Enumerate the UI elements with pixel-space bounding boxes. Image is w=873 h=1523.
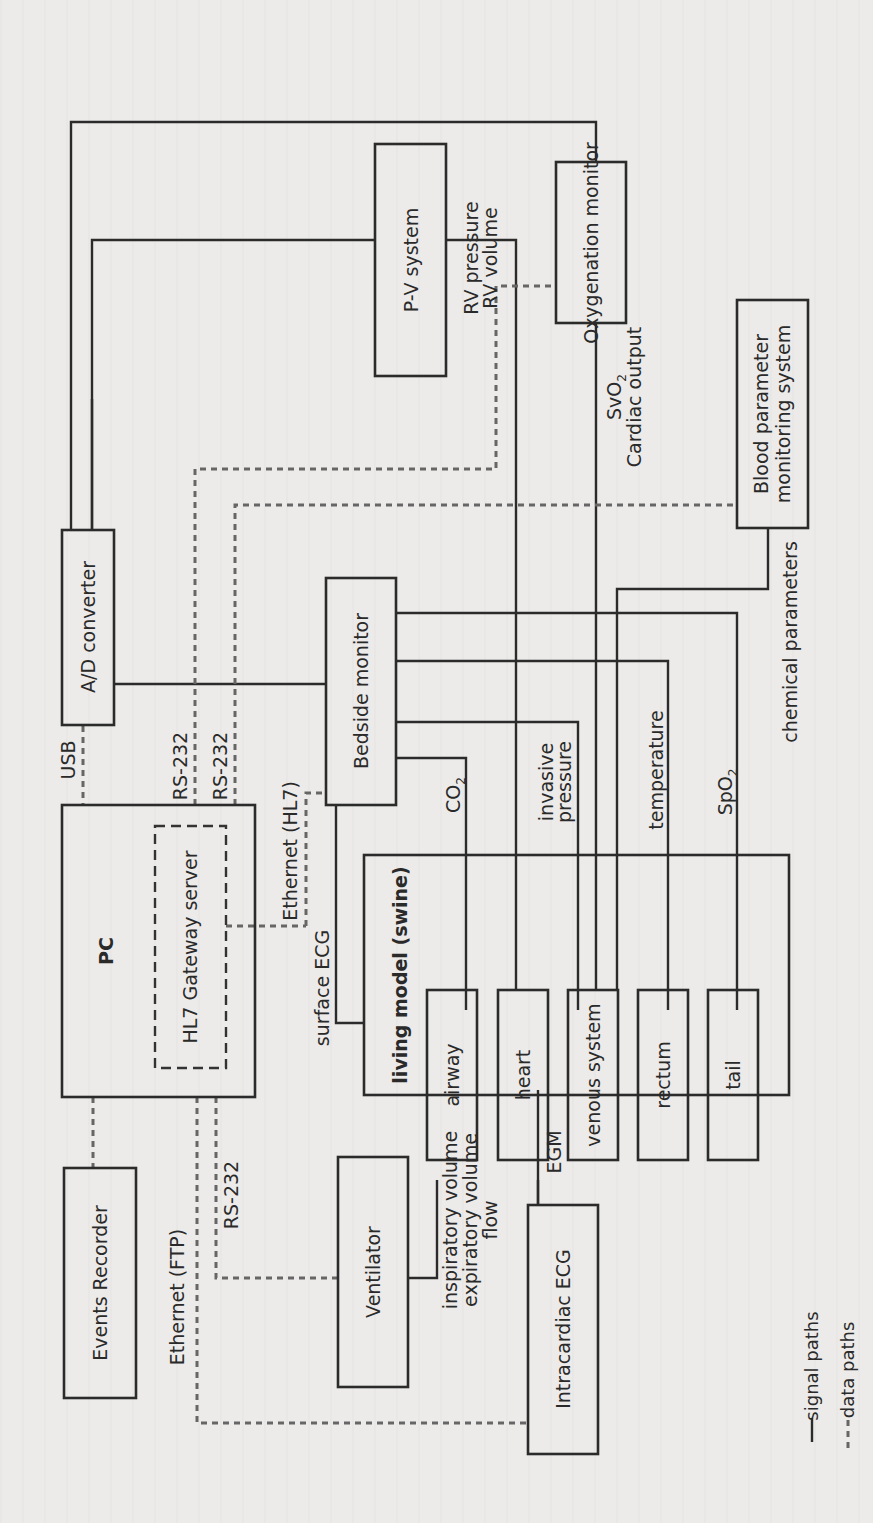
path-ethernet-hl7	[306, 793, 322, 926]
inspiratory-volume-label: inspiratory volume	[439, 1131, 461, 1310]
ventilator-label: Ventilator	[362, 1226, 384, 1318]
path-bedside-to-rectum	[396, 661, 668, 1010]
rs232-label-b: RS-232	[209, 732, 231, 800]
temperature-label: temperature	[645, 710, 667, 829]
path-bedside-surface-ecg	[336, 805, 364, 1023]
bedside-monitor-label: Bedside monitor	[350, 613, 372, 769]
path-ad-to-pv-left	[92, 240, 375, 530]
expiratory-volume-label: expiratory volume	[459, 1133, 481, 1307]
living-model-label: living model (swine)	[389, 866, 411, 1083]
ethernet-hl7-label: Ethernet (HL7)	[279, 781, 301, 921]
tail-label: tail	[722, 1060, 744, 1090]
hl7-gateway-label: HL7 Gateway server	[179, 850, 201, 1043]
path-airway-to-ventilator	[409, 1180, 437, 1278]
venous-system-label: venous system	[582, 1003, 604, 1146]
blood-parameter-label-2: monitoring system	[772, 325, 794, 503]
path-blood-to-venous	[617, 528, 768, 990]
diagram-page: P-V system Oxygenation monitor Blood par…	[0, 0, 873, 1523]
rs232-label-a: RS-232	[169, 732, 191, 800]
heart-label: heart	[512, 1050, 534, 1101]
path-pv-to-living-model	[446, 240, 516, 990]
legend-data-label: data paths	[837, 1322, 858, 1419]
oxygenation-monitor-label: Oxygenation monitor	[580, 142, 602, 344]
intracardiac-ecg-label: Intracardiac ECG	[552, 1249, 574, 1409]
rv-volume-label: RV volume	[479, 207, 501, 309]
legend-signal-label: signal paths	[801, 1311, 822, 1420]
ad-converter-label: A/D converter	[77, 561, 99, 693]
flow-label: flow	[479, 1200, 501, 1239]
ethernet-ftp-label: Ethernet (FTP)	[166, 1229, 188, 1365]
egm-label: EGM	[543, 1130, 565, 1173]
signal-labels: RV pressure RV volume SvO2 Cardiac outpu…	[311, 201, 801, 1309]
pc-label: PC	[95, 937, 117, 965]
rectum-label: rectum	[652, 1041, 674, 1109]
airway-label: airway	[441, 1043, 463, 1106]
co2-label: CO2	[442, 777, 468, 813]
cardiac-output-label: Cardiac output	[623, 327, 645, 468]
usb-label: USB	[57, 740, 79, 779]
surface-ecg-label: surface ECG	[311, 930, 333, 1046]
blood-parameter-label-1: Blood parameter	[750, 334, 772, 494]
rs232-ventilator-label: RS-232	[220, 1161, 242, 1229]
system-block-diagram: P-V system Oxygenation monitor Blood par…	[0, 0, 873, 1523]
pressure-label: pressure	[553, 741, 575, 823]
legend: signal paths data paths	[801, 1311, 858, 1448]
pv-system-label: P-V system	[400, 208, 422, 313]
chemical-parameters-label: chemical parameters	[779, 541, 801, 743]
events-recorder-label: Events Recorder	[89, 1205, 111, 1361]
